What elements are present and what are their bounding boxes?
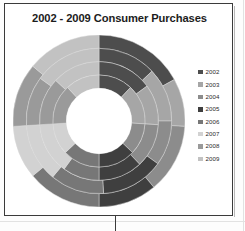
page-guide-right xyxy=(243,0,244,231)
legend-item-label: 2009 xyxy=(206,156,220,162)
legend-item-label: 2002 xyxy=(206,69,220,75)
legend-swatch-icon xyxy=(198,82,203,87)
legend-item[interactable]: 2007 xyxy=(198,128,238,140)
legend-item-label: 2003 xyxy=(206,82,220,88)
legend-swatch-icon xyxy=(198,132,203,137)
legend-swatch-icon xyxy=(198,70,203,75)
chart-title: 2002 - 2009 Consumer Purchases xyxy=(5,12,234,24)
legend-item[interactable]: 2009 xyxy=(198,153,238,165)
legend-item[interactable]: 2004 xyxy=(198,91,238,103)
legend-swatch-icon xyxy=(198,95,203,100)
page-guide-vertical xyxy=(115,216,116,231)
legend-item[interactable]: 2002 xyxy=(198,66,238,78)
doughnut-svg xyxy=(13,35,185,207)
legend-swatch-icon xyxy=(198,157,203,162)
doughnut-chart[interactable] xyxy=(13,35,185,207)
chart-plot-area[interactable] xyxy=(5,26,193,216)
legend-item-label: 2006 xyxy=(206,119,220,125)
legend-item-label: 2005 xyxy=(206,106,220,112)
legend-item[interactable]: 2003 xyxy=(198,78,238,90)
chart-frame[interactable]: 2002 - 2009 Consumer Purchases 200220032… xyxy=(4,3,233,216)
screenshot-root: 2002 - 2009 Consumer Purchases 200220032… xyxy=(0,0,245,231)
legend-swatch-icon xyxy=(198,144,203,149)
legend-item-label: 2004 xyxy=(206,94,220,100)
legend-item[interactable]: 2005 xyxy=(198,103,238,115)
page-guide-horizontal xyxy=(0,221,245,222)
doughnut-hole xyxy=(66,88,131,153)
chart-legend[interactable]: 20022003200420052006200720082009 xyxy=(198,66,238,165)
legend-swatch-icon xyxy=(198,120,203,125)
legend-item[interactable]: 2008 xyxy=(198,140,238,152)
legend-item-label: 2007 xyxy=(206,131,220,137)
legend-item-label: 2008 xyxy=(206,143,220,149)
legend-swatch-icon xyxy=(198,107,203,112)
legend-item[interactable]: 2006 xyxy=(198,116,238,128)
